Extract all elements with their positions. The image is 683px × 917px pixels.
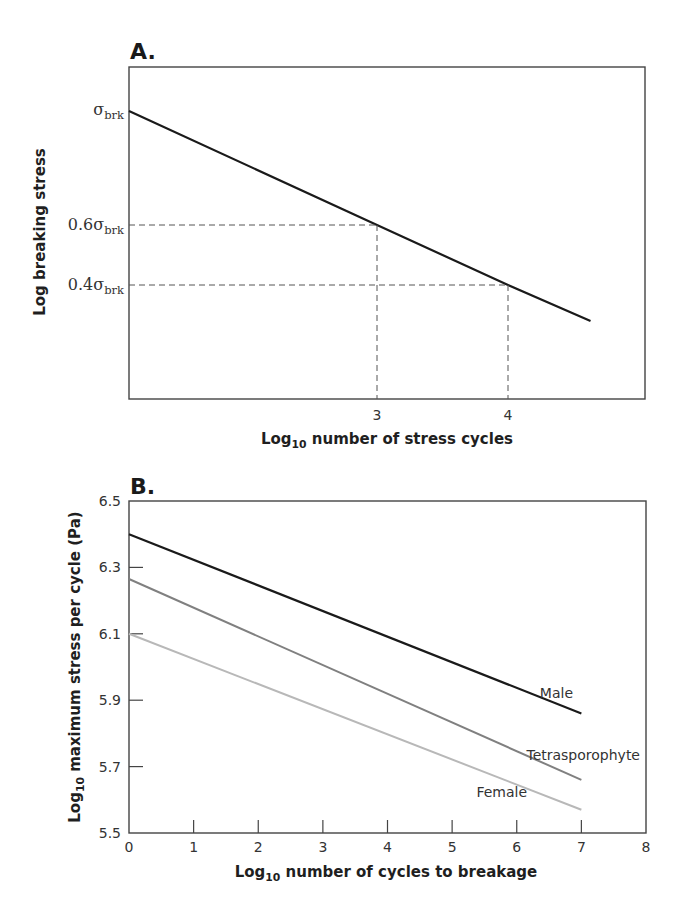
panel-a-y-title: Log breaking stress bbox=[31, 148, 49, 316]
x-tick-label: 4 bbox=[383, 839, 392, 855]
y-tick-label: σbrk bbox=[93, 100, 125, 122]
y-tick-label-sub: brk bbox=[104, 283, 125, 297]
panel-a-x-title-sub: 10 bbox=[292, 438, 307, 451]
panel-b-x-title-rest: number of cycles to breakage bbox=[280, 863, 537, 881]
panel-a-x-title-main: Log bbox=[261, 430, 292, 448]
x-tick-label: 3 bbox=[318, 839, 327, 855]
y-tick-label-main: 0.6σ bbox=[68, 215, 104, 234]
panel-a: A.34σbrk0.6σbrk0.4σbrkLog10 number of st… bbox=[31, 39, 645, 451]
panel-b-x-title-sub: 10 bbox=[265, 871, 280, 884]
x-tick-label: 4 bbox=[504, 407, 513, 423]
y-tick-label-sub: brk bbox=[104, 108, 125, 122]
x-tick-label: 6 bbox=[512, 839, 521, 855]
y-tick-label: 5.9 bbox=[99, 692, 121, 708]
panel-b-y-title-main: Log bbox=[66, 792, 84, 823]
x-tick-label: 5 bbox=[448, 839, 457, 855]
panel-a-x-title: Log10 number of stress cycles bbox=[261, 430, 513, 451]
panel-b-frame bbox=[129, 501, 646, 833]
panel-a-curve bbox=[129, 111, 591, 321]
y-tick-label: 0.4σbrk bbox=[68, 275, 125, 297]
y-tick-label: 6.3 bbox=[99, 559, 121, 575]
series-line-tetrasporophyte bbox=[129, 579, 581, 780]
panel-a-frame bbox=[129, 67, 645, 399]
panel-b-x-title-main: Log bbox=[235, 863, 266, 881]
series-line-male bbox=[129, 534, 581, 713]
panel-a-x-title-rest: number of stress cycles bbox=[307, 430, 513, 448]
x-tick-label: 3 bbox=[373, 407, 382, 423]
figure: A.34σbrk0.6σbrk0.4σbrkLog10 number of st… bbox=[0, 0, 683, 917]
x-tick-label: 8 bbox=[642, 839, 651, 855]
panel-b-letter: B. bbox=[130, 474, 155, 499]
panel-b-y-title: Log10 maximum stress per cycle (Pa) bbox=[66, 511, 87, 822]
panel-a-letter: A. bbox=[130, 39, 156, 64]
y-tick-label: 6.1 bbox=[99, 626, 121, 642]
y-tick-label-main: σ bbox=[93, 100, 104, 119]
y-tick-label: 5.5 bbox=[99, 825, 121, 841]
panel-b-x-title: Log10 number of cycles to breakage bbox=[235, 863, 538, 884]
panel-b-y-title-sub: 10 bbox=[74, 777, 87, 792]
panel-b: B.0123456785.55.75.96.16.36.5MaleTetrasp… bbox=[66, 474, 650, 884]
y-tick-label: 6.5 bbox=[99, 493, 121, 509]
panel-b-y-title-rest: maximum stress per cycle (Pa) bbox=[66, 511, 84, 777]
x-tick-label: 1 bbox=[189, 839, 198, 855]
y-tick-label-main: 0.4σ bbox=[68, 275, 104, 294]
series-label-female: Female bbox=[476, 784, 527, 800]
series-label-tetrasporophyte: Tetrasporophyte bbox=[525, 747, 640, 763]
series-label-male: Male bbox=[540, 685, 573, 701]
x-tick-label: 2 bbox=[254, 839, 263, 855]
x-tick-label: 7 bbox=[577, 839, 586, 855]
y-tick-label: 0.6σbrk bbox=[68, 215, 125, 237]
y-tick-label-sub: brk bbox=[104, 223, 125, 237]
x-tick-label: 0 bbox=[125, 839, 134, 855]
y-tick-label: 5.7 bbox=[99, 759, 121, 775]
